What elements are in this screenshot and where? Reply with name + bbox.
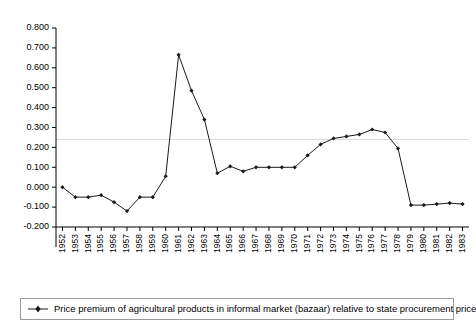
x-axis-tick-label: 1956 (108, 234, 118, 253)
y-axis-tick-label: 0.700 (26, 42, 49, 52)
x-axis-tick-label: 1979 (405, 234, 415, 253)
series-data-point (357, 132, 361, 136)
x-axis-tick-label: 1961 (173, 234, 183, 253)
x-axis-tick-label: 1958 (134, 234, 144, 253)
x-axis-tick-label: 1975 (354, 234, 364, 253)
x-axis-tick-label: 1962 (186, 234, 196, 253)
chart-container: 0.8000.7000.6000.5000.4000.3000.2000.100… (0, 0, 476, 327)
legend-label: Price premium of agricultural products i… (54, 304, 476, 314)
x-axis-tick-label: 1972 (315, 234, 325, 253)
series-data-point (448, 201, 452, 205)
series-data-point (422, 203, 426, 207)
x-axis-tick-label: 1978 (392, 234, 402, 253)
line-chart-svg: 0.8000.7000.6000.5000.4000.3000.2000.100… (0, 0, 476, 290)
x-axis-tick-label: 1959 (147, 234, 157, 253)
x-axis-tick-label: 1976 (366, 234, 376, 253)
y-axis-tick-label: 0.400 (26, 102, 49, 112)
x-axis-tick-label: 1971 (302, 234, 312, 253)
y-axis-tick-label: -0.100 (23, 201, 49, 211)
x-axis-tick-label: 1964 (212, 234, 222, 253)
x-axis-tick-label: 1952 (57, 234, 67, 253)
series-data-point (177, 53, 181, 57)
series-data-point (202, 117, 206, 121)
x-axis-tick-label: 1954 (83, 234, 93, 253)
x-axis-tick-label: 1960 (160, 234, 170, 253)
legend-marker-icon (27, 303, 49, 315)
x-axis-tick-label: 1981 (431, 234, 441, 253)
series-data-point (86, 195, 90, 199)
x-axis-tick-label: 1974 (341, 234, 351, 253)
y-axis-tick-label: 0.300 (26, 122, 49, 132)
series-data-point (241, 169, 245, 173)
chart-legend: Price premium of agricultural products i… (20, 298, 454, 320)
y-axis-tick-label: 0.600 (26, 62, 49, 72)
series-data-point (267, 165, 271, 169)
series-data-point (99, 193, 103, 197)
x-axis-tick-label: 1963 (199, 234, 209, 253)
series-data-point (460, 202, 464, 206)
series-data-point (435, 202, 439, 206)
y-axis-tick-label: 0.500 (26, 82, 49, 92)
y-axis-tick-label: 0.000 (26, 182, 49, 192)
x-axis-tick-label: 1970 (289, 234, 299, 253)
x-axis-tick-label: 1957 (121, 234, 131, 253)
y-axis-tick-label: -0.200 (23, 221, 49, 231)
x-axis-tick-label: 1980 (418, 234, 428, 253)
series-data-point (189, 89, 193, 93)
x-axis-tick-label: 1967 (250, 234, 260, 253)
x-axis-tick-label: 1969 (276, 234, 286, 253)
series-data-point (215, 171, 219, 175)
x-axis-tick-label: 1955 (95, 234, 105, 253)
x-axis-tick-label: 1968 (263, 234, 273, 253)
series-data-point (280, 165, 284, 169)
x-axis-tick-label: 1953 (70, 234, 80, 253)
y-axis-tick-label: 0.800 (26, 22, 49, 32)
series-data-point (370, 127, 374, 131)
series-data-point (409, 203, 413, 207)
series-data-point (228, 164, 232, 168)
series-data-point (344, 134, 348, 138)
x-axis-tick-label: 1983 (457, 234, 467, 253)
x-axis-tick-label: 1966 (237, 234, 247, 253)
y-axis-tick-label: 0.200 (26, 142, 49, 152)
y-axis-tick-label: 0.100 (26, 162, 49, 172)
x-axis-tick-label: 1982 (444, 234, 454, 253)
series-line (62, 55, 462, 211)
x-axis-tick-label: 1973 (328, 234, 338, 253)
plot-area: 0.8000.7000.6000.5000.4000.3000.2000.100… (0, 0, 476, 290)
x-axis-tick-label: 1977 (379, 234, 389, 253)
series-data-point (254, 165, 258, 169)
x-axis-tick-label: 1965 (224, 234, 234, 253)
